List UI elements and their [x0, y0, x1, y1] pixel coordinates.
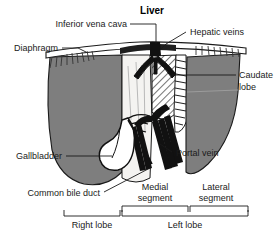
- bracket-left-lobe: [122, 210, 248, 216]
- label-diaphragm: Diaphragm: [14, 43, 58, 53]
- label-inferior-vena-cava: Inferior vena cava: [55, 19, 127, 29]
- label-medial-segment-line1: Medial: [142, 182, 169, 192]
- label-lateral-segment-line1: Lateral: [202, 182, 230, 192]
- label-right-lobe: Right lobe: [72, 220, 113, 230]
- liver-diagram-canvas: Liver Inferior vena cava Hepatic veins D…: [0, 0, 277, 233]
- bracket-lateral-segment: [190, 206, 248, 212]
- label-caudate-lobe-line1: Caudate: [239, 70, 273, 80]
- caudate-ribbed-band: [174, 55, 187, 132]
- leader-inferior-vena-cava: [130, 24, 156, 44]
- label-caudate-lobe-line2: lobe: [239, 82, 256, 92]
- inferior-vena-cava-shape: [150, 42, 161, 56]
- bracket-medial-segment: [122, 206, 188, 212]
- label-medial-segment-line2: segment: [138, 193, 173, 203]
- label-left-lobe: Left lobe: [168, 220, 203, 230]
- label-lateral-segment-line2: segment: [199, 193, 234, 203]
- label-common-bile-duct: Common bile duct: [27, 188, 100, 198]
- liver-anatomy-figure: Liver Inferior vena cava Hepatic veins D…: [0, 0, 277, 233]
- figure-title: Liver: [140, 5, 164, 16]
- label-portal-vein: Portal vein: [176, 148, 219, 158]
- label-hepatic-veins: Hepatic veins: [190, 27, 245, 37]
- bracket-right-lobe: [64, 210, 120, 216]
- label-gallbladder: Gallbladder: [16, 151, 62, 161]
